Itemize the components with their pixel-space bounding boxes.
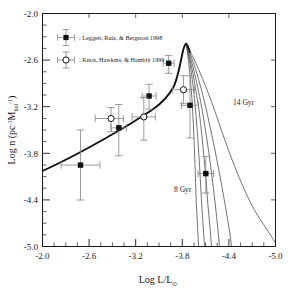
legend-label-knox: : Knox, Hawkins, & Hambly 1999 — [79, 56, 164, 63]
data-point — [78, 162, 83, 167]
chart-canvas: -2.0 -2.6 -3.2 -3.8 -4.4 -5.0 -2.0 -2.6 … — [0, 0, 292, 293]
x-tick-label: -2.6 — [82, 251, 97, 261]
y-tick-label: -2.0 — [24, 9, 39, 19]
legend-label-leggett: : Leggett, Ruiz, & Bergeron 1998 — [79, 34, 162, 41]
annotation-8gyr: 8 Gyr — [174, 185, 192, 194]
y-tick-label: -2.6 — [24, 55, 39, 65]
x-tick-label: -3.2 — [129, 251, 143, 261]
legend-marker-filled-square — [63, 35, 68, 40]
x-tick-label: -4.4 — [222, 251, 237, 261]
data-point — [180, 87, 186, 93]
x-tick-label: -2.0 — [35, 251, 50, 261]
legend-marker-open-circle — [63, 57, 69, 63]
data-point — [116, 125, 121, 130]
x-tick-label: -3.8 — [175, 251, 190, 261]
data-point — [187, 103, 192, 108]
x-tick-label: -5.0 — [268, 251, 283, 261]
luminosity-function-chart: -2.0 -2.6 -3.2 -3.8 -4.4 -5.0 -2.0 -2.6 … — [0, 0, 292, 293]
data-point — [108, 115, 114, 121]
data-point — [203, 171, 208, 176]
y-tick-label: -3.2 — [24, 102, 38, 112]
data-point — [141, 114, 147, 120]
annotation-14gyr: 14 Gyr — [233, 98, 255, 107]
y-tick-label: -3.8 — [24, 149, 39, 159]
y-tick-label: -4.4 — [24, 195, 39, 205]
x-axis-title: Log L/L⊙ — [139, 274, 178, 287]
chart-background — [0, 0, 292, 293]
data-point — [166, 61, 171, 66]
